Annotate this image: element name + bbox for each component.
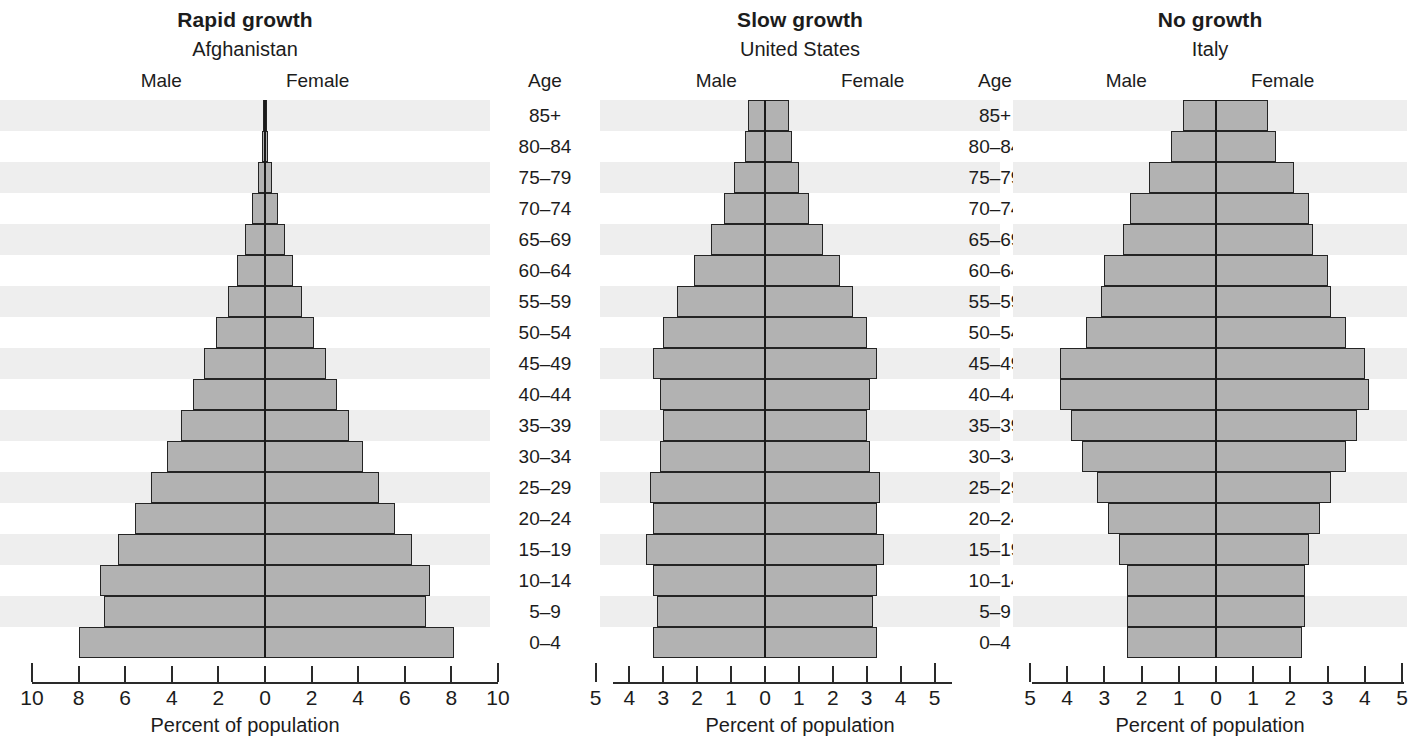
x-axis-caption-afghanistan: Percent of population — [0, 714, 490, 737]
bar-male — [1130, 193, 1216, 224]
bar-female — [265, 596, 426, 627]
bar-male — [677, 286, 765, 317]
bar-female — [265, 224, 285, 255]
sex-legend-afghanistan: MaleFemale — [0, 70, 490, 92]
bar-male — [653, 503, 765, 534]
bar-female — [265, 255, 293, 286]
bar-female — [765, 193, 809, 224]
bar-male — [167, 441, 265, 472]
bar-female — [1216, 162, 1294, 193]
bar-layer-afghanistan — [0, 100, 490, 658]
age-group-label: 85+ — [490, 100, 600, 131]
x-axis-afghanistan: 1086420246810 Percent of population — [0, 658, 490, 743]
pyramid-row — [1013, 255, 1407, 286]
bar-male — [653, 348, 765, 379]
x-axis-tick — [78, 666, 80, 682]
x-axis-tick-label: 0 — [1196, 686, 1236, 710]
center-axis-line-italy — [1215, 100, 1217, 658]
x-axis-tick — [696, 666, 698, 682]
bar-female — [265, 317, 314, 348]
pyramid-row — [0, 255, 490, 286]
x-axis-tick-label: 4 — [1047, 686, 1087, 710]
pyramid-row — [0, 193, 490, 224]
bar-female — [1216, 379, 1369, 410]
bar-female — [765, 441, 870, 472]
bar-female — [1216, 503, 1320, 534]
bar-female — [765, 100, 789, 131]
bar-female — [1216, 565, 1305, 596]
age-group-label: 25–29 — [490, 472, 600, 503]
x-axis-tick-label: 1 — [1159, 686, 1199, 710]
bar-male — [1097, 472, 1216, 503]
pyramid-row — [1013, 472, 1407, 503]
pyramid-row — [1013, 503, 1407, 534]
pyramid-row — [1013, 410, 1407, 441]
x-axis-tick-label: 6 — [105, 686, 145, 710]
x-axis-tick — [832, 666, 834, 682]
pyramid-row — [0, 162, 490, 193]
bar-male — [100, 565, 265, 596]
age-label-list-1: 85+80–8475–7970–7465–6960–6455–5950–5445… — [490, 100, 600, 658]
bar-female — [765, 286, 853, 317]
bar-female — [265, 162, 272, 193]
x-axis-tick — [404, 666, 406, 682]
bar-female — [1216, 317, 1346, 348]
x-axis-tick-label: 4 — [338, 686, 378, 710]
bar-male — [748, 100, 765, 131]
x-axis-tick — [1103, 666, 1105, 682]
bar-female — [265, 379, 337, 410]
bar-female — [265, 410, 349, 441]
age-group-label: 40–44 — [490, 379, 600, 410]
x-axis-tick — [1215, 666, 1217, 682]
bar-male — [1101, 286, 1216, 317]
bar-female — [765, 317, 867, 348]
x-axis-tick — [595, 663, 597, 682]
bar-male — [660, 441, 765, 472]
x-axis-tick-label: 0 — [245, 686, 285, 710]
bar-male — [646, 534, 765, 565]
x-axis-tick — [1327, 666, 1329, 682]
x-axis-tick-label: 2 — [1270, 686, 1310, 710]
legend-male-label: Male — [696, 70, 737, 92]
bar-male — [660, 379, 765, 410]
x-axis-tick-label: 8 — [59, 686, 99, 710]
pyramid-row — [1013, 348, 1407, 379]
x-axis-caption-italy: Percent of population — [1013, 714, 1407, 737]
pyramid-row — [0, 596, 490, 627]
bar-female — [265, 348, 326, 379]
bar-male — [1127, 596, 1216, 627]
pyramid-row — [1013, 441, 1407, 472]
bar-female — [265, 472, 379, 503]
x-axis-tick — [764, 666, 766, 682]
chart-panel-afghanistan: Rapid growth Afghanistan MaleFemale 1086… — [0, 0, 490, 743]
bar-female — [1216, 534, 1309, 565]
x-axis-tick — [171, 666, 173, 682]
bar-female — [1216, 472, 1331, 503]
x-axis-tick-label: 2 — [198, 686, 238, 710]
pyramid-row — [1013, 627, 1407, 658]
x-axis-tick — [798, 666, 800, 682]
bar-male — [657, 596, 765, 627]
chart-subtitle-afghanistan: Afghanistan — [0, 38, 490, 61]
legend-female-label: Female — [841, 70, 904, 92]
x-axis-tick-label: 5 — [1382, 686, 1412, 710]
bar-female — [765, 162, 799, 193]
x-axis-tick — [866, 666, 868, 682]
x-axis-tick-label: 3 — [1308, 686, 1348, 710]
pyramid-row — [1013, 193, 1407, 224]
bar-female — [1216, 224, 1313, 255]
pyramid-row — [1013, 596, 1407, 627]
bar-female — [1216, 131, 1276, 162]
x-axis-tick — [662, 666, 664, 682]
bar-male — [237, 255, 265, 286]
bar-male — [1127, 565, 1216, 596]
bar-female — [765, 255, 840, 286]
bar-male — [663, 410, 765, 441]
bar-male — [1104, 255, 1216, 286]
bar-female — [765, 565, 877, 596]
x-axis-tick — [124, 666, 126, 682]
plot-area-italy — [1013, 100, 1407, 658]
age-group-label: 75–79 — [490, 162, 600, 193]
x-axis-tick-label: 5 — [1010, 686, 1050, 710]
pyramid-row — [1013, 534, 1407, 565]
